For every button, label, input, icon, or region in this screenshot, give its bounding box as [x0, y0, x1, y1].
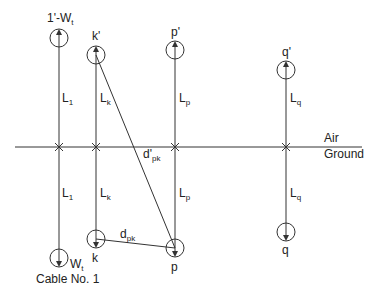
- label-cable1-name: Cable No. 1: [36, 272, 100, 286]
- label-k: k: [92, 251, 99, 265]
- d-pk-line: [96, 239, 175, 248]
- d-prime-pk-line: [96, 55, 175, 248]
- label-q: q: [282, 243, 289, 257]
- label-d-pk: dpk: [120, 227, 136, 243]
- label-p-image: p': [171, 25, 180, 39]
- label-cable1-bottom: Wt: [70, 257, 84, 273]
- label-k-image: k': [92, 29, 100, 43]
- label-Lk-top: Lk: [100, 91, 112, 107]
- diagram-svg: 1'-Wt k' p' q' L1 Lk Lp Lq L1 Lk Lp Lq d…: [0, 0, 380, 297]
- label-Lq-top: Lq: [290, 91, 301, 107]
- label-cable1-image: 1'-Wt: [47, 11, 74, 27]
- label-q-image: q': [282, 45, 291, 59]
- cable-p: [166, 41, 184, 257]
- label-Lp-bottom: Lp: [179, 186, 191, 202]
- label-ground: Ground: [324, 147, 364, 161]
- label-Lq-bottom: Lq: [290, 186, 301, 202]
- cable-1: [50, 29, 68, 267]
- label-Lk-bottom: Lk: [100, 186, 112, 202]
- label-Lp-top: Lp: [179, 91, 191, 107]
- label-air: Air: [324, 131, 339, 145]
- label-L1-bottom: L1: [62, 186, 74, 202]
- label-p: p: [171, 260, 178, 274]
- image-method-diagram: 1'-Wt k' p' q' L1 Lk Lp Lq L1 Lk Lp Lq d…: [0, 0, 380, 297]
- label-d-prime-pk: d'pk: [143, 147, 161, 163]
- cable-q: [277, 61, 295, 241]
- label-L1-top: L1: [62, 91, 74, 107]
